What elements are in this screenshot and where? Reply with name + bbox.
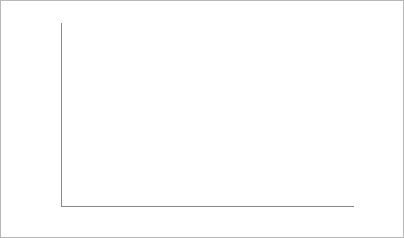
chart-figure (0, 0, 404, 238)
plot-area (61, 23, 354, 207)
x-axis-tick-labels (61, 209, 354, 225)
y-axis-tick-marks (1, 23, 61, 207)
stacked-area-series (62, 23, 355, 207)
